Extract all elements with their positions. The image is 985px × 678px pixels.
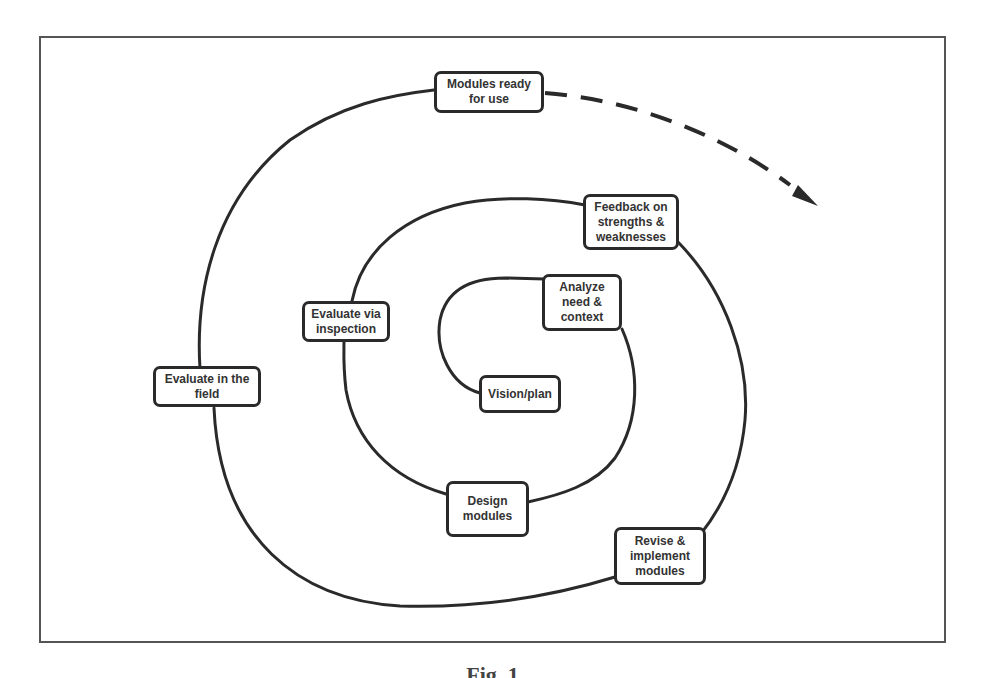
node-revise-implement-modules: Revise & implement modules [614, 527, 706, 585]
node-evaluate-in-field: Evaluate in the field [153, 366, 261, 407]
connector-analyze-design [528, 329, 635, 502]
node-feedback-strengths-weaknesses: Feedback on strengths & weaknesses [583, 194, 679, 250]
connector-feedback-revise [678, 242, 746, 535]
connector-design-inspect [344, 341, 446, 494]
node-design-modules: Design modules [446, 481, 529, 537]
arrowhead-icon [792, 185, 818, 206]
figure-caption: Fig. 1 [0, 660, 985, 678]
node-modules-ready: Modules ready for use [434, 71, 544, 113]
node-analyze-need-context: Analyze need & context [542, 274, 622, 331]
connector-revise-field [214, 408, 615, 606]
node-evaluate-via-inspection: Evaluate via inspection [302, 301, 390, 342]
node-vision-plan: Vision/plan [479, 375, 561, 413]
continuation-arrow [545, 93, 790, 185]
